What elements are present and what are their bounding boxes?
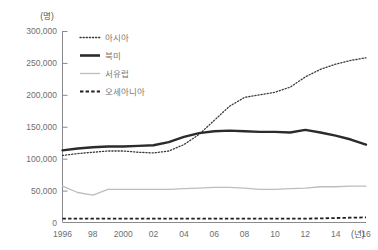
legend-label-seoyurop: 서유럽 — [105, 69, 129, 79]
series-line-bukmi — [63, 130, 367, 150]
y-axis-tick-labels: 300,000250,000200,000150,000100,00050,00… — [26, 26, 57, 228]
y-tick-label: 100,000 — [26, 154, 57, 164]
x-tick-label: 14 — [331, 229, 341, 239]
legend-label-oceania: 오세아니아 — [105, 87, 145, 97]
series-line-seoyurop — [63, 186, 367, 195]
chart-svg: (명) 300,000250,000200,000150,000100,0005… — [0, 0, 378, 250]
x-axis-unit-label: (년) — [351, 229, 365, 239]
y-axis-tick-marks — [63, 32, 68, 192]
chart-legend: 아시아 북미 서유럽 오세아니아 — [80, 33, 145, 97]
y-axis-unit-group: (명) — [40, 11, 54, 21]
x-tick-label: 06 — [210, 229, 220, 239]
y-tick-label: 250,000 — [26, 58, 57, 68]
x-tick-label: 98 — [88, 229, 98, 239]
y-tick-label: 200,000 — [26, 90, 57, 100]
x-tick-label: 02 — [149, 229, 159, 239]
x-axis-tick-labels: 19969820000204060810121416 — [53, 229, 371, 239]
y-tick-label: 0 — [52, 218, 57, 228]
y-tick-label: 300,000 — [26, 26, 57, 36]
y-tick-label: 150,000 — [26, 122, 57, 132]
x-tick-label: 10 — [270, 229, 280, 239]
series-line-oceania — [63, 217, 367, 218]
x-tick-label: 04 — [179, 229, 189, 239]
y-tick-label: 50,000 — [31, 186, 57, 196]
x-tick-label: 12 — [301, 229, 311, 239]
y-axis-unit-label: (명) — [40, 11, 54, 21]
x-tick-label: 08 — [240, 229, 250, 239]
x-tick-label: 1996 — [53, 229, 72, 239]
series-lines-group — [63, 58, 367, 219]
x-tick-label: 2000 — [114, 229, 133, 239]
legend-label-asia: 아시아 — [105, 33, 129, 43]
line-chart: (명) 300,000250,000200,000150,000100,0005… — [0, 0, 378, 250]
legend-label-bukmi: 북미 — [105, 51, 121, 61]
